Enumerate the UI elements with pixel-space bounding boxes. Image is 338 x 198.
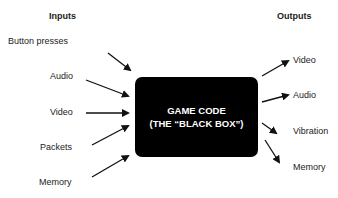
arrow-in-packets bbox=[92, 126, 128, 145]
arrow-in-button bbox=[108, 53, 130, 70]
arrow-out-audio bbox=[262, 95, 288, 102]
arrows bbox=[0, 0, 338, 198]
arrow-in-memory bbox=[92, 156, 128, 177]
arrow-out-memory bbox=[265, 140, 279, 162]
arrow-out-vibration bbox=[262, 123, 276, 133]
arrow-out-video bbox=[262, 61, 288, 76]
arrow-in-audio bbox=[86, 80, 128, 96]
